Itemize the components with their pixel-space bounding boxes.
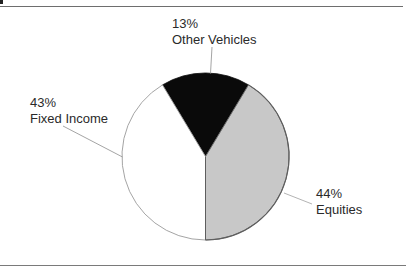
label-fixed-income-name: Fixed Income <box>30 111 108 127</box>
label-fixed-income: 43% Fixed Income <box>30 95 108 127</box>
leader-other-vehicles <box>211 47 213 74</box>
leader-equities <box>284 193 312 204</box>
leader-fixed-income <box>63 126 123 157</box>
label-other-vehicles-pct: 13% <box>172 16 257 32</box>
label-other-vehicles: 13% Other Vehicles <box>172 16 257 48</box>
label-other-vehicles-name: Other Vehicles <box>172 32 257 48</box>
label-equities-name: Equities <box>316 202 362 218</box>
bottom-rule <box>0 265 406 266</box>
label-equities: 44% Equities <box>316 186 362 218</box>
label-fixed-income-pct: 43% <box>30 95 108 111</box>
label-equities-pct: 44% <box>316 186 362 202</box>
